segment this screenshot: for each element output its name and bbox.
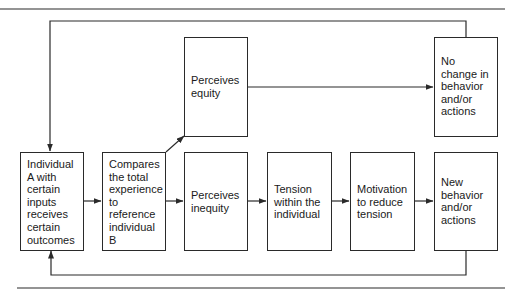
node-individual-a: Individual A with certain inputs receive… [20, 152, 84, 251]
node-label: New behavior and/or actions [441, 176, 493, 226]
node-label: Compares the total experience to referen… [109, 158, 161, 246]
node-label: Perceives inequity [191, 189, 243, 214]
node-label: Individual A with certain inputs receive… [27, 158, 79, 246]
bottom-feedback-arrow [51, 250, 466, 275]
node-label: Tension within the individual [274, 183, 327, 221]
top-feedback-arrow [50, 21, 466, 151]
node-motivation: Motivation to reduce tension [350, 152, 415, 251]
node-new-behavior: New behavior and/or actions [434, 152, 498, 251]
node-compares: Compares the total experience to referen… [102, 152, 166, 251]
arrow-compare-to-equity [166, 136, 184, 152]
node-label: Motivation to reduce tension [357, 183, 410, 221]
node-label: No change in behavior and/or actions [441, 55, 493, 118]
node-label: Perceives equity [191, 74, 243, 99]
node-no-change: No change in behavior and/or actions [434, 37, 498, 137]
node-perceives-inequity: Perceives inequity [184, 152, 248, 251]
node-perceives-equity: Perceives equity [184, 37, 248, 137]
node-tension: Tension within the individual [267, 152, 332, 251]
